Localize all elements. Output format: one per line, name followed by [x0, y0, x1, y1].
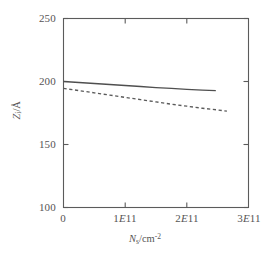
- plot-frame: [64, 19, 249, 208]
- x-axis-exponent: -2: [155, 232, 161, 241]
- x-tick-label-1e11: 1E11: [102, 212, 148, 224]
- x-axis-unit: /cm: [139, 233, 155, 244]
- x-tick-0-text: 0: [60, 212, 66, 224]
- y-axis-title: Zi/Å: [11, 80, 24, 140]
- x-axis-ticks: [125, 19, 187, 208]
- x-axis-title: Ns/cm-2: [95, 232, 195, 246]
- series-solid-curve: [64, 82, 216, 91]
- x-axis-symbol: N: [129, 233, 136, 244]
- x-tick-label-3e11: 3E11: [226, 212, 272, 224]
- x-tick-label-0: 0: [40, 212, 86, 224]
- y-axis-ticks: [64, 19, 249, 208]
- y-axis-subscript: i: [14, 112, 23, 114]
- chart-figure: 250 200 150 100 0 1E11 2E11 3E11 Zi/Å Ns…: [0, 0, 280, 262]
- series-dashed-curve: [64, 88, 227, 111]
- x-tick-label-2e11: 2E11: [164, 212, 210, 224]
- y-axis-unit: /Å: [11, 101, 22, 112]
- y-axis-symbol: Z: [11, 114, 22, 120]
- y-tick-label-250: 250: [14, 12, 56, 24]
